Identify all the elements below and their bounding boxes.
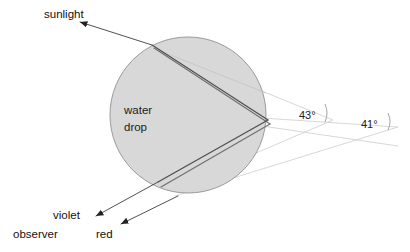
water-drop-label-line2: drop — [124, 121, 147, 133]
red-label: red — [96, 228, 113, 240]
angle-arc-41 — [388, 113, 390, 130]
observer-label: observer — [13, 228, 58, 240]
sunlight-label: sunlight — [44, 8, 84, 20]
sunlight-incoming-ray — [80, 22, 152, 45]
rainbow-diagram: sunlight water drop 43° 41° violet red o… — [0, 0, 410, 252]
violet-label: violet — [53, 209, 81, 221]
exit-ray-red — [121, 196, 178, 224]
exit-ray-violet — [96, 182, 158, 216]
angle-label-41: 41° — [361, 118, 378, 130]
diagram-canvas: sunlight water drop 43° 41° violet red o… — [0, 0, 410, 252]
angle-label-43: 43° — [299, 109, 316, 121]
angle-arc-43 — [325, 104, 327, 122]
water-drop-label-line1: water — [123, 104, 152, 116]
